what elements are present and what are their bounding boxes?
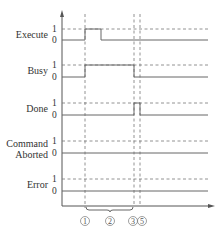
- signal-execute: Execute 1 0: [16, 24, 208, 45]
- signal-busy: Busy 1 0: [27, 60, 208, 82]
- marker-3: 3: [129, 217, 138, 227]
- signal-error: Error 1 0: [27, 174, 208, 196]
- timing-diagram: Execute 1 0 Busy 1 0 Done 1 0 Command Ab…: [0, 0, 224, 233]
- marker-5: 5: [138, 217, 147, 227]
- level-low-label: 0: [52, 186, 57, 196]
- signal-label: Done: [26, 103, 48, 114]
- level-high-label: 1: [52, 174, 57, 184]
- level-low-label: 0: [52, 35, 57, 45]
- level-low-label: 0: [52, 110, 57, 120]
- level-high-label: 1: [52, 60, 57, 70]
- marker-2: 2: [106, 217, 115, 227]
- signal-waveform: [62, 65, 208, 77]
- signal-waveform: [62, 29, 208, 40]
- signal-done: Done 1 0: [26, 98, 208, 120]
- marker-1: 1: [81, 217, 90, 227]
- signal-label: Error: [27, 179, 49, 190]
- y-axis-arrow: [60, 10, 64, 17]
- level-low-label: 0: [52, 72, 57, 82]
- interval-bracket: [86, 207, 133, 212]
- marker-label: 3: [131, 217, 135, 226]
- signal-waveform: [62, 103, 208, 115]
- signal-label-line-2: Aborted: [15, 149, 48, 160]
- level-low-label: 0: [52, 148, 57, 158]
- level-high-label: 1: [52, 24, 57, 34]
- x-axis-arrow: [208, 204, 215, 208]
- signal-label: Busy: [27, 65, 48, 76]
- marker-label: 2: [108, 217, 112, 226]
- signal-label: Execute: [16, 29, 49, 40]
- marker-label: 1: [83, 217, 87, 226]
- signal-label-line-1: Command: [6, 138, 48, 149]
- level-high-label: 1: [52, 136, 57, 146]
- marker-label: 5: [140, 217, 144, 226]
- level-high-label: 1: [52, 98, 57, 108]
- signal-command-aborted: Command Aborted 1 0: [6, 136, 208, 160]
